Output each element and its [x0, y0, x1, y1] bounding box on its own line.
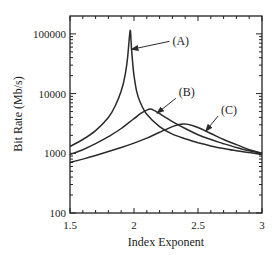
- series-label-a: (A): [172, 34, 189, 48]
- bit-rate-chart: 1.522.53 100100010000100000 (A)(B)(C) In…: [0, 0, 278, 255]
- x-tick-label: 3: [259, 219, 265, 231]
- x-tick-label: 1.5: [63, 219, 77, 231]
- y-tick-label: 1000: [44, 147, 67, 159]
- annotation-arrow: [131, 41, 169, 49]
- series-line-c: [70, 124, 262, 163]
- series-label-c: (C): [221, 103, 237, 117]
- annotation-arrow: [206, 116, 218, 131]
- series-annotations: (A)(B)(C): [131, 34, 237, 131]
- y-axis-title: Bit Rate (Mb/s): [11, 76, 25, 151]
- y-tick-label: 100: [50, 207, 67, 219]
- x-tick-label: 2.5: [191, 219, 205, 231]
- series-lines: [70, 30, 262, 162]
- y-tick-label: 10000: [39, 88, 67, 100]
- y-tick-label: 100000: [33, 28, 67, 40]
- series-line-a: [70, 30, 262, 154]
- series-label-b: (B): [179, 85, 195, 99]
- y-tick-labels: 100100010000100000: [33, 28, 67, 219]
- x-tick-label: 2: [131, 219, 137, 231]
- annotation-arrow: [157, 98, 176, 113]
- x-tick-labels: 1.522.53: [63, 219, 265, 231]
- x-axis-title: Index Exponent: [128, 235, 205, 249]
